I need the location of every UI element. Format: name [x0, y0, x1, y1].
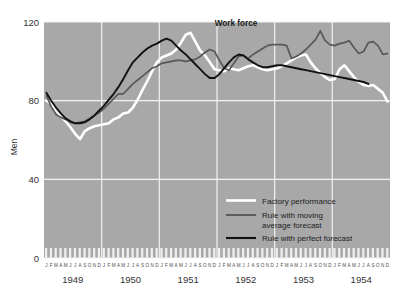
month-tick — [189, 248, 191, 258]
month-tick — [329, 248, 331, 258]
month-tick — [208, 248, 210, 258]
month-tick — [333, 248, 335, 258]
legend-label-factory-performance: Factory performance — [262, 197, 336, 206]
month-tick — [353, 248, 355, 258]
month-tick — [165, 248, 167, 258]
month-label: D — [328, 263, 332, 268]
month-label: M — [121, 263, 125, 268]
month-tick — [237, 248, 239, 258]
month-label: N — [150, 263, 153, 268]
month-tick — [266, 248, 268, 258]
month-tick — [103, 248, 105, 258]
month-label: J — [305, 263, 307, 268]
year-label-1949: 1949 — [62, 274, 83, 285]
y-tick-label-0: 0 — [34, 253, 39, 264]
month-label: S — [372, 263, 375, 268]
month-tick — [69, 248, 71, 258]
month-label: J — [242, 263, 244, 268]
month-label: N — [323, 263, 326, 268]
month-label: O — [88, 263, 92, 268]
month-label: J — [189, 263, 191, 268]
month-label: M — [294, 263, 298, 268]
month-tick — [213, 248, 215, 258]
month-label: N — [93, 263, 96, 268]
month-tick — [107, 248, 109, 258]
month-label: J — [161, 263, 163, 268]
month-tick — [55, 248, 57, 258]
work-force-line-chart: 120 80 40 0 Men JFMAMJJASONDJFMAMJJASOND… — [0, 0, 407, 298]
month-tick — [377, 248, 379, 258]
month-tick — [242, 248, 244, 258]
month-tick — [93, 248, 95, 258]
month-tick — [343, 248, 345, 258]
month-tick — [132, 248, 134, 258]
month-tick — [256, 248, 258, 258]
month-tick — [290, 248, 292, 258]
legend-label-moving-average-line1: Rule with moving — [262, 211, 323, 220]
month-label: D — [271, 263, 275, 268]
month-label: D — [155, 263, 159, 268]
month-label: O — [376, 263, 380, 268]
month-tick — [300, 248, 302, 258]
month-tick — [175, 248, 177, 258]
month-tick — [271, 248, 273, 258]
month-tick — [199, 248, 201, 258]
month-label: J — [247, 263, 249, 268]
month-label: J — [185, 263, 187, 268]
month-label: J — [127, 263, 129, 268]
month-tick — [305, 248, 307, 258]
month-tick — [45, 248, 47, 258]
month-tick — [141, 248, 143, 258]
month-tick — [170, 248, 172, 258]
month-tick — [218, 248, 220, 258]
month-label: M — [227, 263, 231, 268]
month-label: M — [169, 263, 173, 268]
month-tick — [64, 248, 66, 258]
month-label: M — [54, 263, 58, 268]
month-label: J — [132, 263, 134, 268]
month-tick — [122, 248, 124, 258]
month-label: F — [165, 263, 168, 268]
month-tick — [280, 248, 282, 258]
legend-label-moving-average-line2: average forecast — [262, 221, 322, 230]
month-label: S — [83, 263, 86, 268]
month-label: N — [381, 263, 384, 268]
month-label: J — [300, 263, 302, 268]
month-label: F — [338, 263, 341, 268]
month-tick — [194, 248, 196, 258]
month-tick — [381, 248, 383, 258]
month-tick — [372, 248, 374, 258]
month-tick — [74, 248, 76, 258]
month-label: F — [223, 263, 226, 268]
month-label: S — [314, 263, 317, 268]
month-tick — [88, 248, 90, 258]
month-tick — [252, 248, 254, 258]
month-label: M — [179, 263, 183, 268]
year-label-1953: 1953 — [293, 274, 314, 285]
month-label: J — [45, 263, 47, 268]
month-tick — [79, 248, 81, 258]
month-label: O — [261, 263, 265, 268]
month-label: M — [342, 263, 346, 268]
month-tick — [261, 248, 263, 258]
month-label: S — [141, 263, 144, 268]
month-label: F — [50, 263, 53, 268]
month-tick — [295, 248, 297, 258]
month-label: J — [358, 263, 360, 268]
month-tick — [247, 248, 249, 258]
month-label: M — [237, 263, 241, 268]
month-label: N — [266, 263, 269, 268]
month-label: J — [74, 263, 76, 268]
y-tick-label-120: 120 — [23, 17, 39, 28]
month-tick — [362, 248, 364, 258]
month-label: O — [145, 263, 149, 268]
month-label: O — [203, 263, 207, 268]
month-tick — [348, 248, 350, 258]
month-label: D — [213, 263, 217, 268]
month-tick — [184, 248, 186, 258]
month-tick — [50, 248, 52, 258]
month-label: J — [103, 263, 105, 268]
month-tick — [319, 248, 321, 258]
month-tick — [59, 248, 61, 258]
month-label: F — [107, 263, 110, 268]
